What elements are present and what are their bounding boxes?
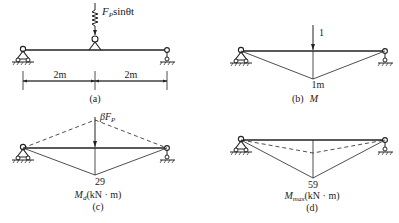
load-label: FPsinθt <box>101 5 134 19</box>
unit-load-label: 1 <box>319 27 324 38</box>
panel-b: 1 1m (b)M <box>230 25 393 105</box>
span-label-right: 2m <box>125 69 138 80</box>
structural-diagram: FPsinθt 2m 2m (a) <box>0 0 399 223</box>
caption-b: (b)M <box>292 93 319 105</box>
force-label: βFP <box>99 111 116 124</box>
peak-value-label: 59 <box>308 179 318 190</box>
panel-d: 59 Mmax(kN · m) (d) <box>230 136 393 214</box>
spring-hinge-icon <box>89 3 101 50</box>
dimension-line <box>23 71 167 90</box>
panel-a: FPsinθt 2m 2m (a) <box>12 3 175 105</box>
panel-c: βFP 29 Md(kN · m) (c) <box>12 111 175 213</box>
pin-support-icon <box>12 46 34 65</box>
caption-c: (c) <box>92 201 103 213</box>
pin-support-icon <box>12 144 34 163</box>
pin-support-icon <box>230 136 252 155</box>
pin-support-icon <box>230 47 252 66</box>
caption-a: (a) <box>89 93 100 105</box>
peak-value-label: 29 <box>95 176 105 187</box>
caption-d: (d) <box>306 202 318 214</box>
peak-value-label: 1m <box>312 79 325 90</box>
span-label-left: 2m <box>54 69 67 80</box>
